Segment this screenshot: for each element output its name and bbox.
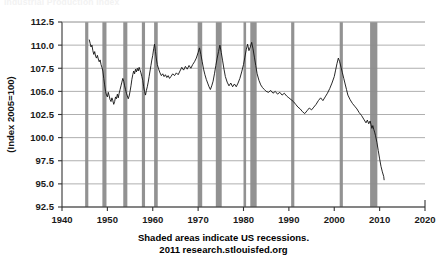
y-tick-label: 100.0 [30, 132, 54, 143]
recession-band [123, 22, 127, 207]
y-tick-label: 110.0 [31, 40, 54, 51]
x-tick-label: 1950 [97, 214, 118, 225]
x-tick-label: 2010 [369, 214, 390, 225]
chart-footer: Shaded areas indicate US recessions. 201… [0, 232, 447, 256]
x-tick-label: 1940 [51, 214, 72, 225]
recession-band [340, 22, 343, 207]
recession-band [102, 22, 106, 207]
y-tick-label: 107.5 [30, 63, 54, 74]
recession-band [370, 22, 377, 207]
x-tick-label: 1990 [278, 214, 299, 225]
footer-source-note: 2011 research.stlouisfed.org [0, 244, 447, 256]
y-axis-title-text: (Index 2005=100) [5, 76, 16, 152]
y-axis-title: (Index 2005=100) [5, 76, 16, 152]
x-tick-label: 2020 [414, 214, 435, 225]
footer-recession-note: Shaded areas indicate US recessions. [0, 232, 447, 244]
x-tick-label: 1970 [188, 214, 209, 225]
fred-chart-figure: Industrial Production Index 92.595.097.5… [0, 0, 447, 271]
y-tick-label: 92.5 [36, 201, 55, 212]
recession-band [244, 22, 247, 207]
x-axis-ticks: 194019501960197019801990200020102020 [51, 207, 435, 225]
y-axis-ticks: 92.595.097.5100.0102.5105.0107.5110.0112… [30, 16, 62, 212]
x-tick-label: 2000 [324, 214, 345, 225]
y-tick-label: 102.5 [30, 109, 54, 120]
recession-band [85, 22, 88, 207]
x-tick-label: 1980 [233, 214, 254, 225]
y-tick-label: 95.0 [36, 178, 55, 189]
y-tick-label: 105.0 [30, 86, 54, 97]
chart-plot-area: 92.595.097.5100.0102.5105.0107.5110.0112… [0, 0, 447, 232]
y-tick-label: 112.5 [31, 16, 55, 27]
recession-band [142, 22, 145, 207]
x-tick-label: 1960 [142, 214, 163, 225]
recession-band [291, 22, 294, 207]
recession-band [154, 22, 158, 207]
y-tick-label: 97.5 [36, 155, 55, 166]
